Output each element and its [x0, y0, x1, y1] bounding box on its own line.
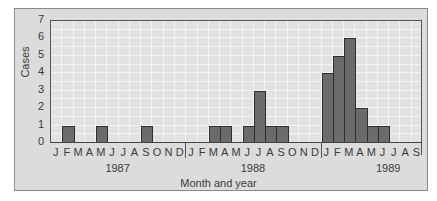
year-label: 1987	[88, 162, 148, 174]
grid-line-horizontal	[51, 98, 421, 99]
x-tick-label: N	[298, 146, 309, 158]
x-tick-label: D	[309, 146, 320, 158]
x-tick-label: A	[264, 146, 275, 158]
y-tick-label: 1	[28, 119, 44, 130]
x-tick-label: S	[140, 146, 151, 158]
grid-line-horizontal	[51, 37, 421, 38]
x-tick-label: M	[73, 146, 84, 158]
bar	[96, 126, 108, 143]
x-tick-label: M	[343, 146, 354, 158]
x-tick-label: J	[253, 146, 264, 158]
grid-line-horizontal	[51, 64, 421, 65]
x-tick-label: J	[321, 146, 332, 158]
grid-line-horizontal	[51, 55, 421, 56]
grid-line-horizontal	[51, 81, 421, 82]
x-tick-label: A	[219, 146, 230, 158]
x-axis-label: Month and year	[0, 177, 437, 189]
x-tick-label: N	[163, 146, 174, 158]
grid-line-horizontal	[51, 90, 421, 91]
y-tick-label: 0	[28, 136, 44, 147]
x-tick-label: M	[208, 146, 219, 158]
x-tick-label: O	[151, 146, 162, 158]
bar	[141, 126, 153, 143]
year-divider	[185, 143, 186, 158]
x-axis-line	[50, 142, 422, 143]
x-tick-label: F	[197, 146, 208, 158]
y-tick-label: 7	[28, 14, 44, 25]
x-tick-label: J	[118, 146, 129, 158]
y-axis-label: Cases	[19, 42, 31, 82]
y-tick-label: 2	[28, 101, 44, 112]
year-label: 1989	[358, 162, 418, 174]
x-tick-label: J	[50, 146, 61, 158]
x-tick-label: F	[61, 146, 72, 158]
x-tick-label: J	[242, 146, 253, 158]
axis-end-tick	[421, 143, 422, 155]
x-tick-label: M	[230, 146, 241, 158]
x-tick-label: J	[388, 146, 399, 158]
year-label: 1988	[223, 162, 283, 174]
plot-area	[50, 20, 422, 142]
grid-line-horizontal	[51, 29, 421, 30]
x-tick-label: J	[185, 146, 196, 158]
x-tick-label: O	[287, 146, 298, 158]
x-tick-label: D	[174, 146, 185, 158]
x-tick-label: S	[275, 146, 286, 158]
x-tick-label: A	[399, 146, 410, 158]
bar	[62, 126, 74, 143]
grid-line-horizontal	[51, 72, 421, 73]
x-tick-label: J	[106, 146, 117, 158]
y-tick-label: 6	[28, 31, 44, 42]
x-tick-label: F	[332, 146, 343, 158]
x-tick-label: A	[84, 146, 95, 158]
bar	[276, 126, 288, 143]
x-tick-label: M	[95, 146, 106, 158]
y-tick-label: 3	[28, 84, 44, 95]
grid-line-horizontal	[51, 46, 421, 47]
x-tick-label: J	[377, 146, 388, 158]
bar	[220, 126, 232, 143]
x-tick-label: M	[366, 146, 377, 158]
x-tick-label: A	[129, 146, 140, 158]
x-tick-label: A	[354, 146, 365, 158]
year-divider	[321, 143, 322, 158]
bar	[378, 126, 390, 143]
